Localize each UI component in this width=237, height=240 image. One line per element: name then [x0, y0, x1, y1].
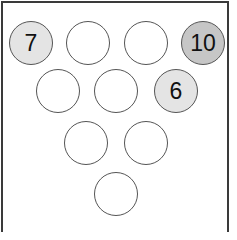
pin-row4-1[interactable]: [94, 172, 138, 216]
pin-row3-1[interactable]: [64, 121, 108, 165]
pin-row1-2[interactable]: [66, 21, 110, 65]
pin-row2-3[interactable]: 6: [154, 69, 198, 113]
pin-row1-1[interactable]: 7: [9, 21, 53, 65]
pin-row3-2[interactable]: [124, 121, 168, 165]
pin-row1-3[interactable]: [124, 21, 168, 65]
pin-row1-4[interactable]: 10: [181, 21, 225, 65]
pin-row2-2[interactable]: [94, 69, 138, 113]
pin-row2-1[interactable]: [36, 69, 80, 113]
